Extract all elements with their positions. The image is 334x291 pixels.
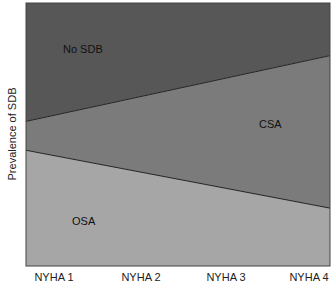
x-tick-nyha-1: NYHA 1: [24, 271, 84, 283]
label-no-sdb: No SDB: [63, 43, 103, 55]
label-osa: OSA: [72, 215, 95, 227]
x-tick-nyha-2: NYHA 2: [111, 271, 171, 283]
x-tick-nyha-4: NYHA 4: [279, 271, 334, 283]
stacked-area-chart: [0, 0, 334, 291]
label-csa: CSA: [259, 118, 282, 130]
x-tick-nyha-3: NYHA 3: [196, 271, 256, 283]
y-axis-label: Prevalence of SDB: [6, 74, 18, 194]
